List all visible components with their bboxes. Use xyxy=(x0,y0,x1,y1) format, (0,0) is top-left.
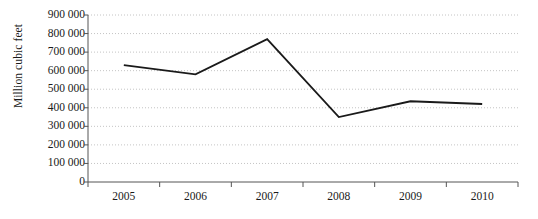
y-axis-ticks xyxy=(84,15,88,182)
x-axis-tick-label: 2009 xyxy=(381,190,441,202)
axis-lines xyxy=(88,15,518,182)
line-chart: Million cubic feet 0100 000200 000300 00… xyxy=(0,0,538,219)
x-axis-tick-label: 2005 xyxy=(94,190,154,202)
series-polyline xyxy=(124,39,482,117)
x-axis-tick-label: 2010 xyxy=(452,190,512,202)
data-series-line xyxy=(124,39,482,117)
gridlines xyxy=(88,15,518,163)
x-axis-ticks xyxy=(88,182,518,187)
plot-area xyxy=(0,0,538,219)
x-axis-tick-label: 2007 xyxy=(237,190,297,202)
x-axis-tick-label: 2008 xyxy=(309,190,369,202)
x-axis-tick-label: 2006 xyxy=(166,190,226,202)
